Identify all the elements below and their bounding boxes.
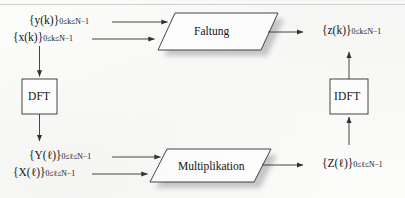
label-X-freq-range: 0≤ℓ≤N−1 [46, 169, 75, 178]
label-x-time-set: {x(k)} [13, 31, 43, 43]
label-X-freq-domain: {X(ℓ)}0≤ℓ≤N−1 [13, 167, 75, 179]
dft-label: DFT [28, 90, 50, 102]
label-y-time-range: 0≤k≤N−1 [59, 17, 89, 26]
label-z-time-set: {z(k)} [322, 24, 352, 36]
label-Y-freq-domain: {Y(ℓ)}0≤ℓ≤N−1 [29, 150, 91, 162]
label-X-freq-set: {X(ℓ)} [13, 166, 46, 178]
label-y-time-domain: {y(k)}0≤k≤N−1 [29, 15, 89, 27]
multiplication-label: Multiplikation [178, 160, 244, 172]
label-y-time-set: {y(k)} [29, 14, 59, 26]
label-z-time-range: 0≤k≤N−1 [352, 27, 382, 36]
diagram-canvas: {y(k)}0≤k≤N−1 {x(k)}0≤k≤N−1 {z(k)}0≤k≤N−… [0, 0, 405, 198]
label-x-time-domain: {x(k)}0≤k≤N−1 [13, 32, 73, 44]
idft-label: IDFT [334, 90, 360, 102]
label-Y-freq-set: {Y(ℓ)} [29, 149, 62, 161]
label-Z-freq-set: {Z(ℓ)} [322, 157, 353, 169]
convolution-label: Faltung [194, 25, 229, 37]
label-x-time-range: 0≤k≤N−1 [43, 34, 73, 43]
label-Y-freq-range: 0≤ℓ≤N−1 [62, 152, 91, 161]
label-Z-freq-range: 0≤ℓ≤N−1 [353, 160, 382, 169]
label-z-time-domain: {z(k)}0≤k≤N−1 [322, 25, 381, 37]
label-Z-freq-domain: {Z(ℓ)}0≤ℓ≤N−1 [322, 158, 383, 170]
